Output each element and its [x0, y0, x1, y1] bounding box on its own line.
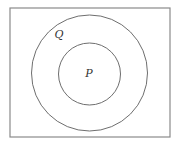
set-q-label: Q: [54, 28, 63, 41]
venn-diagram: Q P: [0, 0, 176, 145]
set-p-label: P: [84, 67, 93, 80]
